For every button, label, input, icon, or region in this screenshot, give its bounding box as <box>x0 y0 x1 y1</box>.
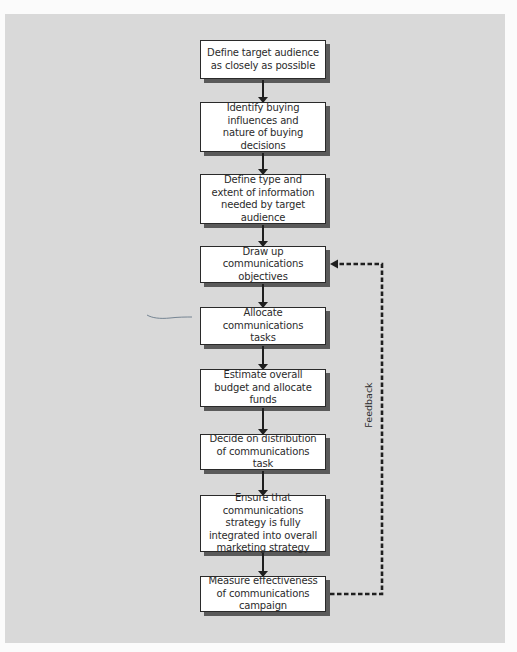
step-label-9: Measure effectiveness of communications … <box>205 575 321 613</box>
step-label-2: Identify buying influences and nature of… <box>213 102 313 152</box>
step-box-1: Define target audience as closely as pos… <box>200 40 326 79</box>
step-label-3: Define type and extent of information ne… <box>209 174 317 224</box>
step-label-6: Estimate overall budget and allocate fun… <box>213 369 313 407</box>
step-label-7: Decide on distribution of communications… <box>209 433 317 471</box>
step-box-6: Estimate overall budget and allocate fun… <box>200 369 326 407</box>
arrow-down-6 <box>262 408 264 434</box>
step-box-8: Ensure that communications strategy is f… <box>200 495 326 552</box>
arrow-down-1 <box>262 80 264 102</box>
arrow-down-5 <box>262 346 264 369</box>
step-box-3: Define type and extent of information ne… <box>200 174 326 224</box>
feedback-label: Feedback <box>363 382 374 427</box>
arrow-down-4 <box>262 284 264 307</box>
step-label-8: Ensure that communications strategy is f… <box>205 492 321 555</box>
step-box-5: Allocate communications tasks <box>200 307 326 345</box>
step-label-5: Allocate communications tasks <box>213 307 313 345</box>
step-box-2: Identify buying influences and nature of… <box>200 102 326 152</box>
step-label-4: Draw up communications objectives <box>211 246 315 284</box>
arrow-down-3 <box>262 225 264 246</box>
step-box-9: Measure effectiveness of communications … <box>200 576 326 612</box>
step-box-7: Decide on distribution of communications… <box>200 434 326 470</box>
step-box-4: Draw up communications objectives <box>200 246 326 283</box>
arrow-down-2 <box>262 153 264 174</box>
arrow-down-8 <box>262 553 264 576</box>
step-label-1: Define target audience as closely as pos… <box>205 47 321 72</box>
